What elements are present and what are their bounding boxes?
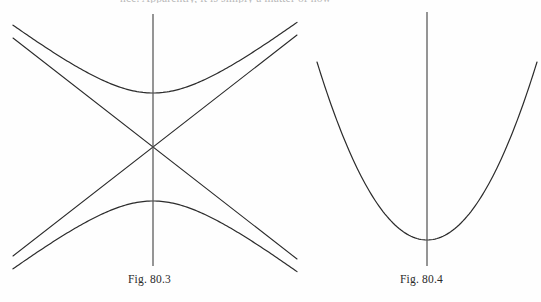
figures-drawing-area [0,0,541,302]
asymptote-negative-slope-line [13,38,297,259]
figure-caption-80-3: Fig. 80.3 [128,272,171,286]
asymptote-positive-slope-line [13,35,297,256]
figure-caption-80-4: Fig. 80.4 [400,272,443,286]
page-canvas: nce. Apparently, it is simply a matter o… [0,0,541,302]
figure-80-4-group [317,12,537,266]
hyperbola-lower-branch [13,201,297,272]
figure-80-3-group [13,14,297,272]
hyperbola-upper-branch [13,22,297,93]
